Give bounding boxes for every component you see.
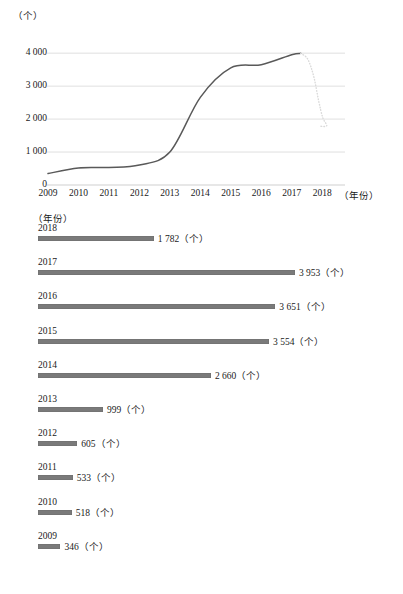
bar-row: 2010518（个） [0, 497, 403, 531]
series-line-dotted-decline [301, 53, 327, 126]
bar-row: 2009346（个） [0, 531, 403, 565]
bar-value-label: 3 554（个） [273, 334, 324, 348]
bar-value-label: 3 651（个） [279, 299, 330, 313]
line-chart-plot-area [0, 0, 403, 200]
bar-fill [38, 304, 275, 309]
bar-fill [38, 270, 295, 275]
bar-row-year-label: 2015 [38, 326, 57, 337]
bar-track [38, 475, 73, 480]
bar-track [38, 544, 60, 549]
bar-track [38, 270, 295, 275]
x-axis-tick-label: 2014 [183, 188, 217, 198]
bar-value-label: 533（个） [77, 470, 121, 484]
bar-value-label: 346（个） [64, 539, 108, 553]
bar-fill [38, 339, 269, 344]
bar-fill [38, 236, 154, 241]
line-chart-x-axis-unit: （年份） [339, 188, 379, 202]
bar-value-label: 1 782（个） [158, 231, 209, 245]
bar-track [38, 236, 154, 241]
line-chart: （个） 01 0002 0003 0004 000 20092010201120… [0, 0, 403, 200]
bar-row: 20153 554（个） [0, 326, 403, 360]
bar-row-year-label: 2010 [38, 497, 57, 508]
bar-track [38, 441, 77, 446]
bar-value-label: 2 660（个） [215, 368, 266, 382]
series-line-cumulative [48, 53, 301, 173]
bar-row: 2011533（个） [0, 462, 403, 496]
bar-row-year-label: 2018 [38, 223, 57, 234]
bar-row: 20181 782（个） [0, 223, 403, 257]
bar-fill [38, 544, 60, 549]
bar-fill [38, 510, 72, 515]
x-axis-tick-label: 2018 [305, 188, 339, 198]
bar-fill [38, 441, 77, 446]
bar-row-year-label: 2009 [38, 531, 57, 542]
bar-row-year-label: 2014 [38, 360, 57, 371]
x-axis-tick-label: 2015 [214, 188, 248, 198]
bar-row-year-label: 2012 [38, 428, 57, 439]
x-axis-tick-label: 2017 [275, 188, 309, 198]
bar-value-label: 999（个） [107, 402, 151, 416]
bar-chart: （年份） 20181 782（个）20173 953（个）20163 651（个… [0, 205, 403, 594]
bar-value-label: 518（个） [76, 505, 120, 519]
bar-value-label: 3 953（个） [299, 265, 350, 279]
bar-track [38, 373, 211, 378]
bar-track [38, 510, 72, 515]
bar-row: 20173 953（个） [0, 257, 403, 291]
bar-fill [38, 475, 73, 480]
bar-fill [38, 373, 211, 378]
bar-row-year-label: 2017 [38, 257, 57, 268]
x-axis-tick-label: 2012 [122, 188, 156, 198]
x-axis-tick-label: 2016 [244, 188, 278, 198]
x-axis-tick-label: 2010 [61, 188, 95, 198]
bar-track [38, 407, 103, 412]
bar-fill [38, 407, 103, 412]
bar-row: 2012605（个） [0, 428, 403, 462]
x-axis-tick-label: 2011 [92, 188, 126, 198]
bar-row-year-label: 2013 [38, 394, 57, 405]
gridline-group [47, 53, 345, 185]
bar-value-label: 605（个） [81, 436, 125, 450]
bar-track [38, 339, 269, 344]
bar-row-year-label: 2016 [38, 291, 57, 302]
bar-row: 20163 651（个） [0, 291, 403, 325]
bar-row-year-label: 2011 [38, 462, 57, 473]
figure-container: （个） 01 0002 0003 0004 000 20092010201120… [0, 0, 403, 594]
x-axis-tick-label: 2013 [153, 188, 187, 198]
bar-row: 20142 660（个） [0, 360, 403, 394]
x-axis-tick-label: 2009 [31, 188, 65, 198]
bar-row: 2013999（个） [0, 394, 403, 428]
bar-track [38, 304, 275, 309]
